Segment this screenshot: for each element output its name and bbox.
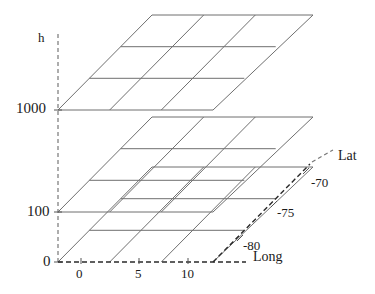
diagram-canvas: [0, 0, 375, 294]
plane-h100: [58, 117, 313, 212]
axis-h-tick-label-100: 100: [27, 204, 50, 219]
plane-h1000: [58, 15, 313, 110]
grid-diagram-figure: h 1000 100 0 0 5 10 Lat -70 -75 -80 Long: [0, 0, 375, 294]
axis-long-tick-label-5: 5: [135, 267, 142, 280]
axis-long: [58, 258, 246, 264]
plane-h0-left-edge: [58, 167, 152, 262]
plane-h100-outline: [58, 117, 313, 212]
axis-lat-tick-label-75: -75: [277, 206, 294, 219]
plane-h100-lat-line-2: [161, 117, 255, 212]
plane-h100-lat-line-1: [110, 117, 204, 212]
plane-h0-lat-line-1: [110, 167, 204, 262]
plane-h0-lat-line-2: [161, 167, 255, 262]
axis-long-tick-label-0: 0: [76, 267, 83, 280]
axis-lat-extension: [312, 150, 333, 162]
plane-h1000-lat-line-2: [161, 15, 255, 110]
plane-h1000-outline: [58, 15, 313, 110]
axis-long-tick-label-10: 10: [181, 267, 194, 280]
axis-h-label: h: [38, 31, 45, 44]
plane-h0: [58, 167, 313, 262]
plane-h1000-lat-line-1: [110, 15, 204, 110]
axis-h-tick-label-1000: 1000: [16, 101, 46, 116]
axis-h: [54, 33, 62, 262]
axis-h-tick-label-0: 0: [43, 254, 51, 269]
axis-long-label: Long: [253, 250, 283, 264]
axis-lat-tick-label-70: -70: [311, 176, 328, 189]
axis-lat-label: Lat: [338, 149, 357, 163]
axis-lat-line: [213, 164, 310, 262]
